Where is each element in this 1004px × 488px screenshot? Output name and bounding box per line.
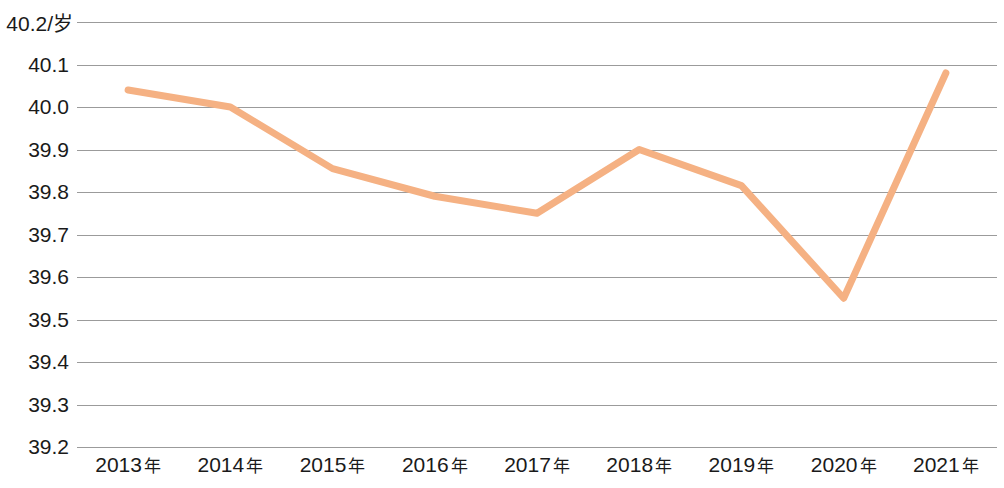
y-axis-tick-label: 39.8 (28, 180, 69, 204)
line-chart: 40.2/岁40.140.039.939.839.739.639.539.439… (0, 0, 1004, 488)
series-line-path (128, 73, 946, 298)
y-axis-unit: 岁 (53, 13, 73, 35)
year-suffix: 年 (144, 457, 161, 476)
y-axis-tick-label: 39.2 (28, 435, 69, 459)
y-axis-tick-label: 39.3 (28, 393, 69, 417)
year-suffix: 年 (246, 457, 263, 476)
y-axis-labels: 40.2/岁40.140.039.939.839.739.639.539.439… (0, 0, 77, 470)
year-suffix: 年 (757, 457, 774, 476)
y-axis-tick-label: 39.7 (28, 223, 69, 247)
x-axis-tick-label: 2019年 (709, 452, 775, 477)
y-axis-tick-label: 39.4 (28, 350, 69, 374)
year-suffix: 年 (451, 457, 468, 476)
x-axis-labels: 2013年2014年2015年2016年2017年2018年2019年2020年… (77, 452, 997, 488)
y-axis-tick-label: 39.5 (28, 308, 69, 332)
y-axis-tick-label: 40.1 (28, 53, 69, 77)
y-axis-tick-label: 40.0 (28, 95, 69, 119)
y-axis-tick-label: 39.6 (28, 265, 69, 289)
x-axis-tick-label: 2020年 (811, 452, 877, 477)
x-axis-tick-label: 2021年 (913, 452, 979, 477)
year-suffix: 年 (860, 457, 877, 476)
y-axis-tick-label: 40.2/岁 (6, 8, 73, 37)
year-suffix: 年 (655, 457, 672, 476)
x-axis-tick-label: 2016年 (402, 452, 468, 477)
x-axis-tick-label: 2015年 (300, 452, 366, 477)
x-axis-tick-label: 2013年 (95, 452, 161, 477)
x-axis-tick-label: 2018年 (606, 452, 672, 477)
year-suffix: 年 (348, 457, 365, 476)
x-axis-tick-label: 2014年 (197, 452, 263, 477)
y-axis-tick-label: 39.9 (28, 138, 69, 162)
x-axis-tick-label: 2017年 (504, 452, 570, 477)
gridline (77, 447, 997, 448)
plot-area (77, 22, 997, 447)
year-suffix: 年 (962, 457, 979, 476)
year-suffix: 年 (553, 457, 570, 476)
series-line-chart (77, 22, 997, 447)
